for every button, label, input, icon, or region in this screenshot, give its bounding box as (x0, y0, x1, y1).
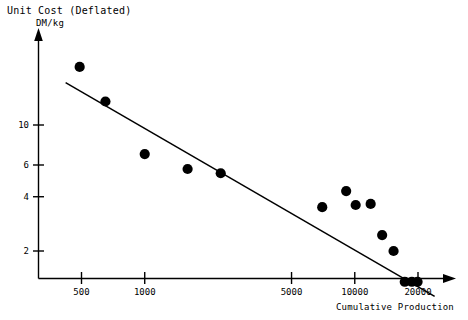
learning-curve-chart: Unit Cost (Deflated) DM/kg Cumulative Pr… (0, 0, 468, 320)
scatter-point (317, 202, 327, 212)
x-axis-arrow-icon (443, 274, 456, 283)
scatter-point (183, 164, 193, 174)
scatter-point (140, 149, 150, 159)
scatter-point (366, 199, 376, 209)
x-tick-label: 5000 (281, 288, 303, 297)
scatter-point (75, 62, 85, 72)
scatter-point (412, 277, 422, 287)
x-tick-label: 20000 (404, 288, 431, 297)
y-tick-label: 10 (18, 121, 29, 130)
scatter-point (388, 246, 398, 256)
y-tick-label: 6 (24, 160, 29, 169)
y-tick-label: 2 (24, 247, 29, 256)
scatter-point (341, 186, 351, 196)
regression-line (66, 83, 435, 297)
scatter-point (351, 200, 361, 210)
plot-area (0, 0, 468, 320)
y-tick-label: 4 (24, 192, 29, 201)
scatter-point (377, 230, 387, 240)
y-axis-arrow-icon (34, 28, 43, 41)
data-points (75, 62, 423, 287)
scatter-point (216, 168, 226, 178)
axis-lines (34, 28, 456, 283)
x-tick-label: 10000 (341, 288, 368, 297)
x-tick-label: 500 (73, 288, 89, 297)
x-tick-label: 1000 (134, 288, 156, 297)
scatter-point (100, 96, 110, 106)
trend-line (66, 83, 435, 297)
